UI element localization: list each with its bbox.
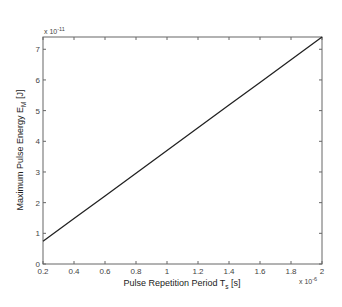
y-axis-title: Maximum Pulse Energy EM [J] [15,90,27,211]
chart-canvas: 0.20.40.60.811.21.41.61.8201234567 x 10-… [0,0,342,307]
y-tick-label: 1 [36,229,41,238]
x-tick-label: 1.8 [285,267,297,276]
x-tick-label: 1 [165,267,170,276]
x-tick-label: 1.6 [254,267,266,276]
axes-box [43,37,322,264]
y-tick-label: 2 [36,199,41,208]
y-tick-label: 5 [36,107,41,116]
y-exponent-label: x 10-11 [44,26,65,35]
y-tick-label: 6 [36,76,41,85]
x-tick-label: 2 [320,267,325,276]
x-axis-title: Pulse Repetition Period Ts [s] [123,278,240,290]
plot-area: 0.20.40.60.811.21.41.61.8201234567 [36,37,325,276]
x-tick-label: 1.2 [192,267,204,276]
x-exponent-label: x 10-6 [299,276,317,285]
y-tick-label: 3 [36,168,41,177]
x-tick-label: 0.8 [130,267,142,276]
y-tick-label: 0 [36,260,41,269]
x-tick-label: 0.6 [99,267,111,276]
x-tick-label: 0.4 [68,267,80,276]
y-tick-label: 4 [36,137,41,146]
x-tick-label: 1.4 [223,267,235,276]
y-tick-label: 7 [36,45,41,54]
data-line [43,37,322,241]
